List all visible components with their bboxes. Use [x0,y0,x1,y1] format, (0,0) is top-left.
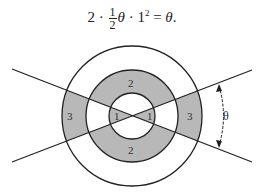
label-inner-left: 1 [114,110,120,122]
concentric-circles-diagram: 1 1 2 2 3 3 θ [0,0,264,196]
label-inner-right: 1 [147,110,153,122]
label-outer-right: 3 [187,110,193,122]
label-outer-left: 3 [67,110,73,122]
angle-label-theta: θ [223,109,229,123]
label-middle-top: 2 [128,77,134,89]
label-middle-bottom: 2 [128,144,134,156]
